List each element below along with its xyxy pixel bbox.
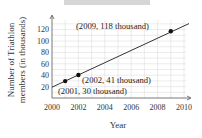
svg-text:2008: 2008 [150,103,166,112]
svg-text:40: 40 [41,71,49,80]
svg-text:2000: 2000 [44,103,60,112]
svg-text:60: 60 [41,60,49,69]
svg-text:Number of Triathlon: Number of Triathlon [6,22,16,97]
y-axis-label: Number of Triathlon members (in thousand… [6,17,27,103]
data-point-2002 [76,73,80,77]
svg-text:20: 20 [41,83,49,92]
svg-text:100: 100 [37,37,49,46]
x-tick-labels: 2000 2002 2004 2006 2008 2010 [44,103,192,112]
data-point-2009 [169,29,173,33]
annotation-2002: (2002, 41 thousand) [82,75,151,85]
svg-text:members (in thousands): members (in thousands) [17,17,27,103]
svg-text:2002: 2002 [70,103,86,112]
svg-text:2006: 2006 [123,103,139,112]
y-tick-labels: 20 40 60 80 100 120 [37,25,49,92]
svg-text:2010: 2010 [176,103,192,112]
svg-text:80: 80 [41,48,49,57]
svg-text:2004: 2004 [97,103,113,112]
line-chart: (2001, 30 thousand) (2002, 41 thousand) … [0,0,202,138]
x-axis-label: Year [110,120,127,130]
annotation-2009: (2009, 118 thousand) [76,21,149,31]
data-point-2001 [63,79,67,83]
annotation-2001: (2001, 30 thousand) [58,86,127,96]
svg-text:120: 120 [37,25,49,34]
